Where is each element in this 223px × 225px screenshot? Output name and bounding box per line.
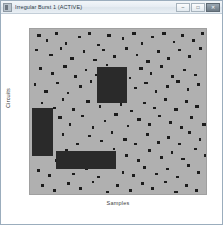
title-bar[interactable]: Irregular Burst 1 (ACTIVE) – □ ✕ (1, 1, 222, 14)
application-window: Irregular Burst 1 (ACTIVE) – □ ✕ Circuit… (0, 0, 223, 225)
block-left (32, 108, 53, 156)
maximize-icon: □ (196, 5, 199, 10)
close-button[interactable]: ✕ (206, 3, 220, 12)
window-title: Irregular Burst 1 (ACTIVE) (15, 3, 176, 11)
minimize-icon: – (182, 5, 185, 10)
x-axis-label: Samples (29, 200, 207, 206)
y-axis-label: Circuits (1, 14, 15, 181)
app-icon (3, 3, 12, 12)
minimize-button[interactable]: – (176, 3, 190, 12)
close-icon: ✕ (211, 5, 215, 10)
block-center (97, 67, 127, 103)
y-axis-label-text: Circuits (5, 88, 11, 108)
window-controls: – □ ✕ (176, 3, 220, 12)
raster-blocks-layer (30, 29, 206, 194)
raster-plot[interactable] (29, 28, 207, 195)
maximize-button[interactable]: □ (191, 3, 205, 12)
block-bottom (56, 151, 116, 169)
client-area: Circuits Samples (1, 14, 222, 223)
